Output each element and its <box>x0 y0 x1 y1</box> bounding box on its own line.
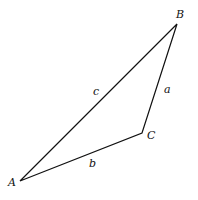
vertex-label-c: C <box>147 129 156 142</box>
vertex-label-a: A <box>7 176 16 189</box>
vertex-label-b: B <box>175 8 184 21</box>
triangle-diagram: B a c C b A <box>0 0 198 200</box>
side-label-c: c <box>93 85 99 98</box>
side-label-a: a <box>164 83 171 96</box>
triangle-abc <box>20 24 177 181</box>
side-label-b: b <box>89 157 96 170</box>
